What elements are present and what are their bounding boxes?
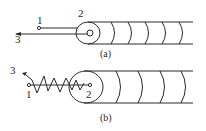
label-2: 2 (86, 88, 92, 100)
waveguide-diagram: 1 2 3 (a) 3 1 2 (b) (0, 0, 206, 131)
label-1: 1 (37, 14, 43, 26)
point-1-marker (37, 26, 40, 29)
wavefront-arc (138, 71, 143, 103)
wavefront-arc (160, 71, 165, 103)
tube-opening-ellipse (76, 22, 100, 44)
point-2-marker (87, 30, 93, 36)
label-2: 2 (78, 7, 84, 19)
wavefront-arc (181, 71, 186, 103)
label-1: 1 (26, 88, 32, 100)
zigzag-wave (26, 75, 84, 93)
caption-a: (a) (100, 48, 111, 60)
label-3: 3 (10, 64, 16, 76)
point-1-marker (27, 83, 30, 86)
point-2-marker (88, 83, 91, 86)
caption-b: (b) (100, 112, 112, 124)
wavefront-arc (116, 71, 121, 103)
figure-a: 1 2 3 (a) (15, 7, 193, 60)
wavefront-arc (128, 22, 132, 44)
figure-b: 3 1 2 (b) (10, 64, 193, 124)
wavefront-arc (162, 22, 166, 44)
wavefront-arc (179, 22, 183, 44)
wavefront-arc (111, 22, 115, 44)
label-3: 3 (15, 33, 21, 45)
wavefront-arc (145, 22, 149, 44)
